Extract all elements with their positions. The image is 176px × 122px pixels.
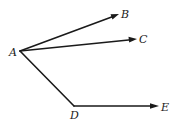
arrowhead-b-icon	[111, 14, 120, 20]
point-label-d: D	[69, 109, 79, 122]
ray-diagram: A B C D E	[0, 0, 176, 122]
arrowhead-e-icon	[150, 103, 159, 109]
segment-ad	[20, 51, 74, 106]
ray-de	[74, 103, 159, 109]
point-label-c: C	[139, 33, 148, 46]
point-label-e: E	[160, 101, 169, 114]
point-label-b: B	[120, 8, 129, 21]
point-label-a: A	[8, 46, 17, 59]
arrowhead-c-icon	[129, 37, 138, 43]
